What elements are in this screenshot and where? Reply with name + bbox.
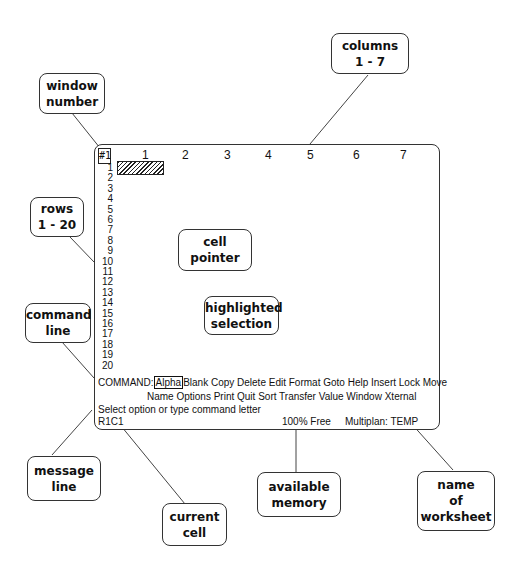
leader-columns	[310, 75, 368, 144]
callout-current-cell: currentcell	[162, 503, 227, 546]
row-header[interactable]: 2	[95, 173, 113, 183]
callout-rows: rows1 - 20	[30, 197, 84, 237]
callout-highlighted-selection: highlightedselection	[204, 296, 279, 335]
callout-cell-pointer: cellpointer	[178, 229, 252, 271]
current-cell: R1C1	[98, 416, 124, 427]
callout-window-number: windownumber	[39, 73, 105, 114]
leader-message-line	[52, 410, 92, 455]
row-header[interactable]: 14	[95, 298, 113, 308]
column-header[interactable]: 6	[353, 148, 360, 162]
callout-message-line: messageline	[27, 456, 101, 501]
highlighted-command[interactable]: Alpha	[154, 376, 184, 389]
available-memory: 100% Free	[282, 416, 331, 427]
row-header[interactable]: 12	[95, 277, 113, 287]
callout-command-line: commandline	[25, 303, 91, 343]
callout-worksheet-name: nameofworksheet	[417, 471, 495, 531]
command-prefix: COMMAND:	[98, 377, 154, 388]
column-header[interactable]: 1	[142, 148, 149, 162]
row-header[interactable]: 17	[95, 329, 113, 339]
column-header[interactable]: 7	[400, 148, 407, 162]
leader-window-number	[72, 113, 100, 148]
command-options-line2[interactable]: Name Options Print Quit Sort Transfer Va…	[147, 391, 416, 402]
leader-command-line	[62, 342, 94, 378]
command-line: COMMAND:AlphaBlank Copy Delete Edit Form…	[98, 377, 447, 388]
leader-rows	[70, 237, 94, 262]
spreadsheet-window: #1 1234567 12345678910111213141516171819…	[94, 144, 440, 430]
column-header[interactable]: 4	[265, 148, 272, 162]
leader-current-cell	[117, 421, 185, 504]
row-header[interactable]: 19	[95, 350, 113, 360]
column-header[interactable]: 5	[307, 148, 314, 162]
worksheet-name: Multiplan: TEMP	[345, 416, 418, 427]
command-options-line1[interactable]: Blank Copy Delete Edit Format Goto Help …	[183, 377, 447, 388]
row-header[interactable]: 4	[95, 194, 113, 204]
row-header[interactable]: 9	[95, 246, 113, 256]
message-line: Select option or type command letter	[98, 404, 261, 415]
column-header[interactable]: 3	[224, 148, 231, 162]
column-header[interactable]: 2	[182, 148, 189, 162]
row-header[interactable]: 20	[95, 361, 113, 371]
callout-available-memory: availablememory	[257, 472, 341, 517]
row-header[interactable]: 7	[95, 225, 113, 235]
cell-pointer[interactable]	[117, 161, 164, 175]
callout-columns: columns1 - 7	[331, 33, 409, 74]
